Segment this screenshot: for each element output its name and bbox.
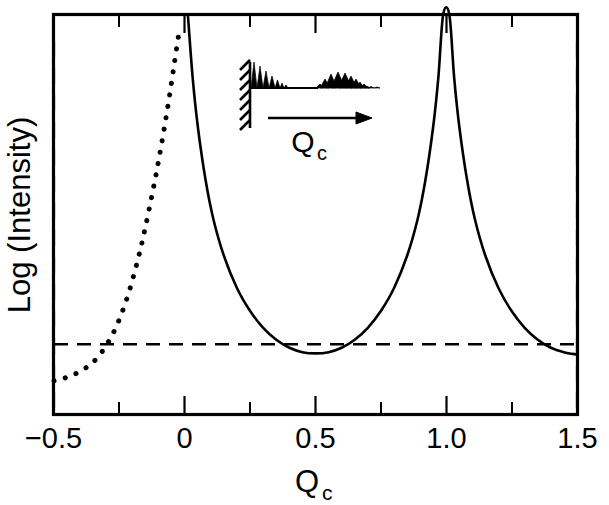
x-axis-top-ticks	[119, 15, 512, 33]
x-tick-label-1: 0	[176, 422, 192, 454]
inset-label-qc: Q c	[291, 125, 327, 164]
atomic-layer-spikes-left	[251, 62, 288, 88]
dotted-branch-curve	[54, 29, 180, 381]
x-tick-label-3: 1.0	[426, 422, 466, 454]
inset-schematic: Q c	[240, 60, 380, 164]
plot-svg: −0.5 0 0.5 1.0 1.5 Q c Log (Intensity)	[0, 0, 609, 505]
inset-direction-arrow-icon	[268, 112, 372, 124]
inset-label-base: Q	[291, 125, 314, 158]
x-axis-title: Q c	[295, 464, 333, 504]
figure-container: −0.5 0 0.5 1.0 1.5 Q c Log (Intensity)	[0, 0, 609, 505]
x-axis-major-ticks	[54, 396, 578, 414]
substrate-wall-icon	[240, 60, 250, 130]
x-tick-label-0: −0.5	[25, 422, 82, 454]
y-axis-title: Log (Intensity)	[2, 117, 37, 313]
x-axis-title-base: Q	[295, 464, 319, 499]
x-tick-label-4: 1.5	[557, 422, 597, 454]
atomic-layer-spikes-right	[316, 72, 380, 88]
inset-label-subscript: c	[317, 142, 327, 164]
x-axis-title-subscript: c	[322, 481, 333, 504]
x-tick-label-2: 0.5	[295, 422, 335, 454]
solid-branch-curve	[188, 7, 577, 354]
